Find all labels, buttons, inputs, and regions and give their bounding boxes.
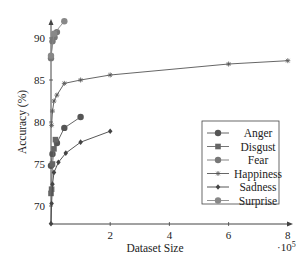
square-marker-icon	[215, 144, 221, 150]
star-marker-icon	[62, 81, 67, 86]
star-marker-icon	[216, 171, 221, 176]
square-marker-icon	[49, 186, 55, 192]
x-axis-label: Dataset Size	[126, 242, 183, 254]
legend-label: Happiness	[234, 168, 282, 181]
star-marker-icon	[108, 72, 113, 77]
diamond-marker-icon	[78, 139, 83, 145]
series-happiness	[49, 58, 290, 128]
circle-marker-icon	[215, 157, 221, 163]
series-line	[51, 21, 64, 55]
legend-label: Anger	[244, 127, 273, 140]
circle-marker-icon	[48, 52, 54, 58]
circle-marker-icon	[77, 114, 83, 120]
square-marker-icon	[51, 146, 57, 152]
square-marker-icon	[53, 137, 59, 143]
x-ticks: 2468	[107, 222, 291, 241]
y-axis-label: Accuracy (%)	[16, 90, 29, 154]
diamond-marker-icon	[49, 201, 54, 207]
legend-label: Disgust	[240, 141, 276, 154]
star-marker-icon	[285, 58, 290, 63]
x-tick-label: 2	[107, 229, 113, 241]
y-tick-label: 70	[34, 200, 46, 212]
y-tick-label: 90	[34, 32, 46, 44]
legend: AngerDisgustFearHappinessSadnessSurprise	[202, 121, 282, 208]
legend-label: Fear	[248, 154, 269, 166]
star-marker-icon	[54, 93, 59, 98]
series-line	[52, 61, 288, 126]
series-line	[51, 131, 110, 223]
chart: 2468 7075808590 Dataset Size ·105 Accura…	[0, 0, 307, 268]
legend-label: Surprise	[239, 195, 277, 208]
x-tick-label: 8	[285, 229, 291, 241]
circle-marker-icon	[61, 125, 67, 131]
x-tick-label: 6	[226, 229, 232, 241]
star-marker-icon	[78, 78, 83, 83]
diamond-marker-icon	[49, 221, 54, 227]
star-marker-icon	[51, 99, 56, 104]
x-axis-multiplier: ·105	[277, 240, 296, 253]
star-marker-icon	[49, 123, 54, 128]
legend-label: Sadness	[239, 181, 277, 193]
circle-marker-icon	[215, 130, 221, 136]
x-tick-label: 4	[167, 229, 173, 241]
circle-marker-icon	[215, 197, 221, 203]
y-tick-label: 80	[34, 116, 46, 128]
diamond-marker-icon	[108, 128, 113, 134]
y-tick-label: 75	[34, 158, 46, 170]
y-axis-arrow-icon	[49, 19, 54, 25]
circle-marker-icon	[61, 18, 67, 24]
circle-marker-icon	[51, 31, 57, 37]
square-marker-icon	[50, 161, 56, 167]
star-marker-icon	[226, 62, 231, 67]
y-tick-label: 85	[34, 74, 46, 86]
star-marker-icon	[50, 109, 55, 114]
